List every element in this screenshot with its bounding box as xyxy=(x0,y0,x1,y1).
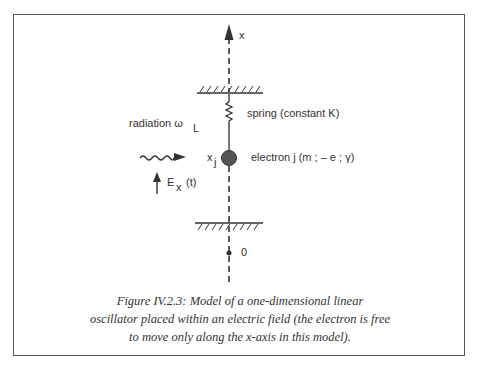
wave-arrowhead-icon xyxy=(174,153,186,161)
caption-line: Figure IV.2.3: Model of a one-dimensiona… xyxy=(60,292,420,310)
axis-label: x xyxy=(239,29,245,41)
figure-caption: Figure IV.2.3: Model of a one-dimensiona… xyxy=(60,292,420,346)
field-arg: (t) xyxy=(186,176,196,188)
top-wall xyxy=(197,86,263,93)
field-subscript: x xyxy=(176,181,182,193)
origin-label: 0 xyxy=(241,246,247,258)
caption-line: oscillator placed within an electric fie… xyxy=(60,310,420,328)
caption-line: to move only along the x-axis in this mo… xyxy=(60,328,420,346)
radiation-label: radiation ω xyxy=(129,117,183,129)
radiation-subscript: L xyxy=(193,122,199,134)
wave-arrow-icon xyxy=(140,156,178,160)
field-label: E xyxy=(167,176,174,188)
position-label: x xyxy=(207,151,213,163)
electron-label: electron j (m ; – e ; γ) xyxy=(251,151,354,163)
spring-icon xyxy=(226,94,232,151)
x-axis-arrow-icon xyxy=(225,24,234,40)
spring-label: spring (constant K) xyxy=(247,107,339,119)
origin-dot-icon xyxy=(227,251,232,256)
position-subscript: j xyxy=(213,156,216,168)
field-arrow-icon xyxy=(153,172,161,182)
electron-icon xyxy=(222,151,237,166)
